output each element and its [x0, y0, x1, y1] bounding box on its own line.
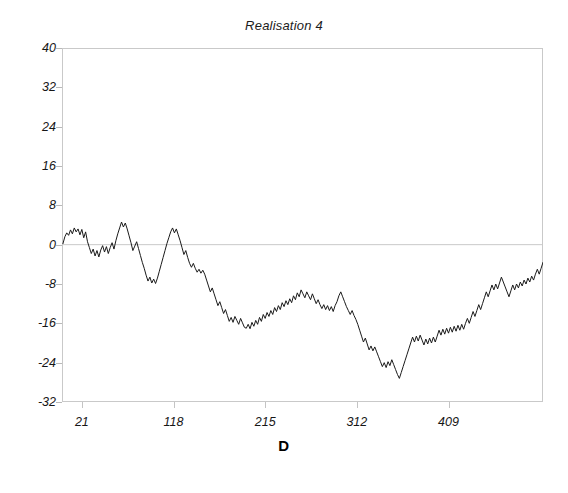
y-tick-mark [56, 127, 62, 128]
y-tick-mark [56, 284, 62, 285]
y-tick-mark [56, 323, 62, 324]
x-axis-title: D [0, 437, 568, 454]
plot-area [62, 48, 543, 402]
y-tick-label: -32 [12, 395, 56, 409]
y-tick-mark [56, 402, 62, 403]
y-tick-label: 40 [12, 41, 56, 55]
x-tick-label: 21 [52, 415, 112, 429]
y-axis-labels: 4032241680-8-16-24-32 [8, 0, 56, 493]
x-tick-mark [174, 402, 175, 408]
y-tick-label: 8 [12, 198, 56, 212]
y-tick-mark [56, 363, 62, 364]
x-tick-label: 409 [419, 415, 479, 429]
x-tick-mark [265, 402, 266, 408]
y-tick-label: -24 [12, 356, 56, 370]
x-tick-label: 312 [327, 415, 387, 429]
x-tick-mark [82, 402, 83, 408]
x-tick-label: 118 [144, 415, 204, 429]
y-tick-mark [56, 245, 62, 246]
y-tick-mark [56, 205, 62, 206]
y-tick-label: 32 [12, 80, 56, 94]
y-tick-label: 16 [12, 159, 56, 173]
y-tick-label: 24 [12, 120, 56, 134]
chart-title: Realisation 4 [0, 18, 568, 33]
y-tick-mark [56, 48, 62, 49]
data-series-line [63, 222, 543, 378]
y-tick-mark [56, 166, 62, 167]
x-tick-label: 215 [235, 415, 295, 429]
y-tick-mark [56, 87, 62, 88]
y-tick-label: -8 [12, 277, 56, 291]
y-tick-label: -16 [12, 316, 56, 330]
x-tick-mark [449, 402, 450, 408]
x-tick-mark [357, 402, 358, 408]
chart-figure: Realisation 4 4032241680-8-16-24-32 2111… [0, 0, 568, 493]
y-tick-label: 0 [12, 238, 56, 252]
